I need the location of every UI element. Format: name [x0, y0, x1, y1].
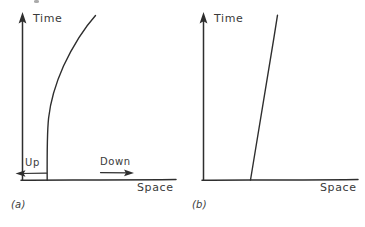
- panel-b-worldline-line: [251, 15, 278, 180]
- panel-a-time-axis-label: Time: [33, 13, 62, 24]
- panel-a-up-label: Up: [25, 158, 40, 168]
- panel-a-graphics: [16, 12, 177, 180]
- panel-b-time-axis-label: Time: [214, 13, 243, 24]
- spacetime-diagram-figure: Time Up Down Space (a) Time Space (b): [0, 0, 365, 227]
- panel-a-down-label: Down: [100, 157, 131, 167]
- panel-b-graphics: [200, 12, 358, 180]
- panel-b-caption: (b): [192, 200, 207, 210]
- panel-a-space-axis-label: Space: [137, 182, 174, 193]
- panel-a-worldline-curve: [47, 16, 95, 181]
- figure-canvas: [0, 0, 365, 227]
- panel-a-caption: (a): [11, 200, 26, 210]
- panel-b-space-axis-label: Space: [320, 182, 357, 193]
